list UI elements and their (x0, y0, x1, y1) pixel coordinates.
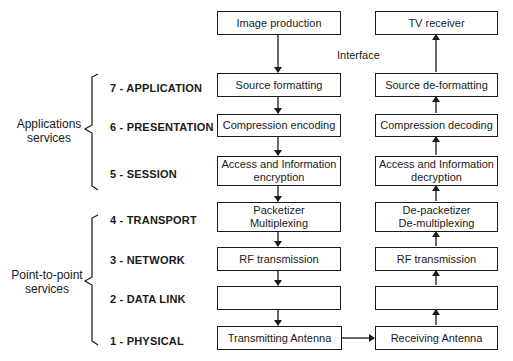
box-transmitting-antenna: Transmitting Antenna (217, 326, 342, 350)
box-text-line2: decryption (411, 171, 462, 184)
box-text: RF transmission (397, 253, 476, 266)
layer-presentation: 6 - PRESENTATION (110, 121, 214, 133)
box-compression-encoding: Compression encoding (217, 114, 341, 137)
box-text-line1: Access and Information (222, 158, 337, 171)
box-source-de-formatting: Source de-formatting (375, 73, 498, 97)
box-text: TV receiver (408, 17, 464, 30)
box-text-line1: Access and Information (379, 158, 494, 171)
box-rf-transmission-tx: RF transmission (217, 247, 341, 271)
layer-transport: 4 - TRANSPORT (110, 214, 197, 226)
box-text: Source formatting (236, 79, 323, 92)
layer-physical: 1 - PHYSICAL (110, 335, 184, 347)
box-access-decryption: Access and Information decryption (375, 156, 498, 186)
group-label-line1: Applications (14, 117, 84, 131)
box-access-encryption: Access and Information encryption (217, 156, 341, 186)
box-text: RF transmission (239, 253, 318, 266)
group-point-to-point-services: Point-to-point services (8, 268, 86, 296)
box-compression-decoding: Compression decoding (375, 114, 498, 137)
group-label-line2: services (8, 282, 86, 296)
layer-network: 3 - NETWORK (110, 254, 185, 266)
box-text: Compression encoding (223, 119, 336, 132)
box-text: Compression decoding (380, 119, 493, 132)
layer-session: 5 - SESSION (110, 168, 177, 180)
box-depacketizer-demultiplexing: De-packetizer De-multiplexing (375, 202, 498, 232)
box-packetizer-multiplexing: Packetizer Multiplexing (217, 202, 341, 232)
box-rf-transmission-rx: RF transmission (375, 247, 498, 271)
group-applications-services: Applications services (14, 117, 84, 145)
box-data-link-rx (375, 286, 498, 310)
box-image-production: Image production (217, 11, 341, 35)
box-text: Receiving Antenna (391, 332, 483, 345)
box-text: Image production (237, 17, 322, 30)
box-source-formatting: Source formatting (217, 73, 341, 97)
layer-data-link: 2 - DATA LINK (110, 293, 186, 305)
box-text-line2: Multiplexing (250, 217, 308, 230)
group-label-line1: Point-to-point (8, 268, 86, 282)
group-label-line2: services (14, 131, 84, 145)
layer-application: 7 - APPLICATION (110, 82, 202, 94)
box-text-line2: encryption (254, 171, 305, 184)
box-text-line1: De-packetizer (403, 204, 471, 217)
interface-label: Interface (337, 49, 380, 61)
box-data-link-tx (217, 286, 341, 310)
box-text: Source de-formatting (385, 79, 488, 92)
box-text-line1: Packetizer (253, 204, 304, 217)
box-receiving-antenna: Receiving Antenna (375, 326, 498, 350)
box-text-line2: De-multiplexing (399, 217, 475, 230)
box-tv-receiver: TV receiver (375, 11, 498, 35)
box-text: Transmitting Antenna (228, 332, 332, 345)
